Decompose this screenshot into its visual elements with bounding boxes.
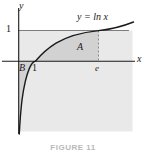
region-a-label: A (77, 42, 83, 52)
y-axis-label: y (19, 1, 23, 11)
figure-caption: FIGURE 11 (0, 143, 146, 152)
region-b-label: B (19, 63, 25, 73)
x-tick-label-1: 1 (32, 63, 37, 73)
x-axis-label: x (137, 54, 141, 64)
log-curve-plot (0, 0, 146, 152)
curve-equation-label: y = ln x (77, 12, 108, 22)
figure-container: y x 1 1 e A B y = ln x FIGURE 11 (0, 0, 146, 152)
y-tick-label-1: 1 (6, 24, 11, 34)
x-tick-label-e: e (95, 64, 99, 73)
